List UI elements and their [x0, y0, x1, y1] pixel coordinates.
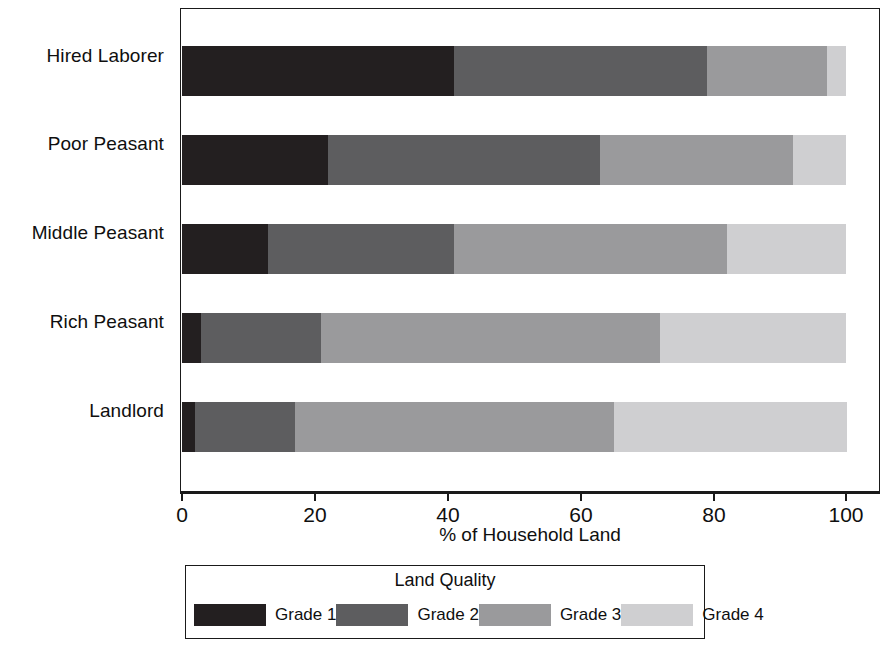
x-axis-line	[180, 492, 880, 494]
bar-segment	[827, 46, 847, 96]
bar-segment	[328, 135, 601, 185]
category-label-poor-peasant: Poor Peasant	[48, 133, 164, 155]
legend-swatch-icon	[479, 604, 551, 626]
x-axis: 0 20 40 60 80 100	[180, 492, 880, 494]
x-axis-title: % of Household Land	[180, 524, 880, 546]
category-label-rich-peasant: Rich Peasant	[50, 311, 164, 333]
bar-segment	[268, 224, 454, 274]
category-label-landlord: Landlord	[89, 400, 164, 422]
x-tick-0	[181, 492, 183, 501]
category-axis-labels: Hired Laborer Poor Peasant Middle Peasan…	[0, 8, 172, 492]
bar-track	[182, 224, 847, 274]
table-row	[182, 313, 879, 363]
bar-track	[182, 402, 847, 452]
bar-segment	[195, 402, 295, 452]
stacked-bar-chart: Hired Laborer Poor Peasant Middle Peasan…	[0, 0, 887, 658]
category-label-hired-laborer: Hired Laborer	[47, 45, 164, 67]
legend-item-label: Grade 1	[275, 605, 336, 625]
x-tick-80	[713, 492, 715, 501]
legend-swatch-icon	[194, 604, 266, 626]
legend-items: Grade 1 Grade 2 Grade 3 Grade 4	[194, 598, 696, 632]
x-tick-20	[314, 492, 316, 501]
bar-segment	[454, 46, 707, 96]
bar-segment	[182, 402, 195, 452]
bar-segment	[707, 46, 827, 96]
table-row	[182, 224, 879, 274]
bar-track	[182, 46, 847, 96]
legend-item-label: Grade 2	[417, 605, 478, 625]
bar-segment	[614, 402, 847, 452]
bar-segment	[201, 313, 321, 363]
x-tick-60	[580, 492, 582, 501]
bar-track	[182, 313, 847, 363]
bar-segment	[321, 313, 660, 363]
legend-item-grade-2[interactable]: Grade 2	[336, 604, 478, 626]
legend-item-grade-4[interactable]: Grade 4	[621, 604, 763, 626]
legend: Land Quality Grade 1 Grade 2 Grade 3 Gra…	[185, 565, 705, 639]
table-row	[182, 402, 879, 452]
bar-segment	[660, 313, 846, 363]
bar-segment	[727, 224, 847, 274]
x-tick-40	[447, 492, 449, 501]
x-tick-100	[845, 492, 847, 501]
bar-segment	[182, 224, 268, 274]
legend-item-grade-3[interactable]: Grade 3	[479, 604, 621, 626]
legend-item-label: Grade 4	[702, 605, 763, 625]
bar-track	[182, 135, 847, 185]
bar-segment	[182, 313, 202, 363]
bar-segment	[600, 135, 793, 185]
legend-swatch-icon	[336, 604, 408, 626]
bar-segment	[295, 402, 614, 452]
legend-title: Land Quality	[186, 570, 704, 591]
bar-segment	[454, 224, 727, 274]
bar-segment	[182, 135, 328, 185]
category-label-middle-peasant: Middle Peasant	[32, 222, 164, 244]
table-row	[182, 135, 879, 185]
bar-segment	[793, 135, 846, 185]
bar-segment	[182, 46, 455, 96]
legend-item-label: Grade 3	[560, 605, 621, 625]
legend-item-grade-1[interactable]: Grade 1	[194, 604, 336, 626]
table-row	[182, 46, 879, 96]
legend-swatch-icon	[621, 604, 693, 626]
bars-layer	[182, 10, 879, 491]
